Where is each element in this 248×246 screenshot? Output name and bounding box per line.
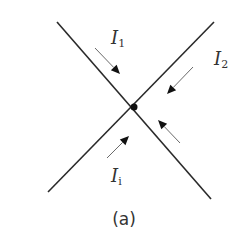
- label-ii-sub: i: [118, 175, 122, 188]
- label-i1-sub: 1: [118, 37, 125, 50]
- figure-caption: (a): [0, 209, 248, 229]
- label-i2: I2: [214, 50, 228, 70]
- current-arrow-i2-icon: [167, 67, 193, 94]
- current-arrow-ii-icon: [107, 136, 129, 158]
- label-i1: I1: [111, 29, 125, 49]
- label-ii: Ii: [111, 167, 122, 187]
- junction-node: [131, 104, 138, 111]
- current-arrow-lower-right-icon: [158, 120, 180, 143]
- label-i2-sub: 2: [221, 58, 228, 71]
